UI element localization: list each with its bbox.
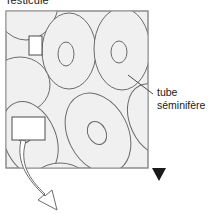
tubule-lumen	[58, 42, 74, 66]
black-down-triangle-marker	[152, 168, 166, 181]
small-magnification-box	[29, 36, 42, 55]
tube-label-line1: tube	[157, 86, 177, 98]
large-magnification-box	[12, 117, 45, 140]
tubule-lumen	[111, 41, 127, 63]
figure-canvas: Testicule	[0, 0, 210, 217]
tube-label-line2: séminifère	[157, 99, 205, 112]
tube-seminifere-label: tube séminifère	[157, 86, 205, 111]
tubule-cross-section	[26, 163, 94, 217]
